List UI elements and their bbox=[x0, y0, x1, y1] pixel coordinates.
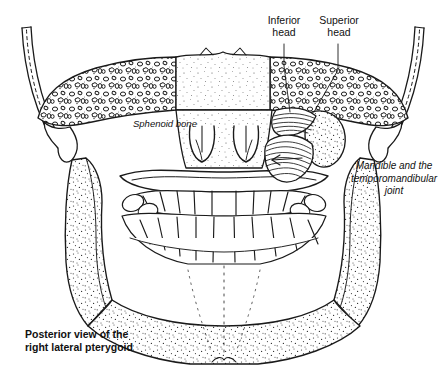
mandibular-ramus-left bbox=[65, 158, 112, 326]
label-superior-head: Superior head bbox=[312, 14, 366, 38]
anatomy-figure: Inferior head Superior head Mandible and… bbox=[0, 0, 448, 375]
label-sphenoid-bone: Sphenoid bone bbox=[133, 118, 238, 130]
label-inferior-head: Inferior head bbox=[258, 14, 310, 38]
lower-teeth-arch bbox=[122, 213, 326, 264]
figure-caption: Posterior view of the right lateral pter… bbox=[25, 328, 200, 354]
label-mandible-tmj: Mandible and the temporomandibular joint bbox=[344, 160, 444, 198]
